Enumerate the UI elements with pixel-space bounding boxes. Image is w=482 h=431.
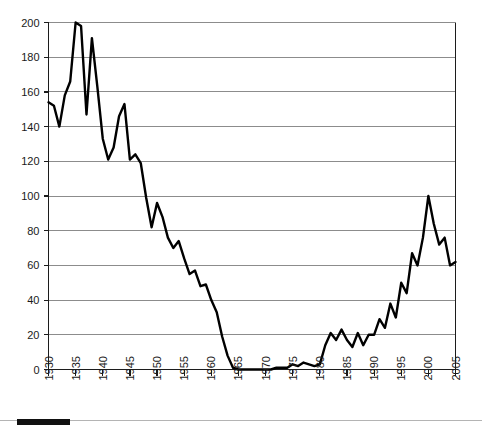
y-axis-tick-labels: 020406080100120140160180200 bbox=[21, 17, 39, 376]
x-tick-label: 1970 bbox=[260, 356, 272, 380]
chart-plot-svg: 020406080100120140160180200 193019351940… bbox=[0, 0, 482, 431]
x-tick-label: 1990 bbox=[368, 356, 380, 380]
line-chart-figure: 020406080100120140160180200 193019351940… bbox=[0, 0, 482, 431]
x-tick-label: 1995 bbox=[395, 356, 407, 380]
rule-track bbox=[0, 420, 482, 421]
y-tick-label: 80 bbox=[27, 225, 39, 237]
y-tick-label: 200 bbox=[21, 17, 39, 29]
y-tick-label: 100 bbox=[21, 190, 39, 202]
y-tick-label: 60 bbox=[27, 259, 39, 271]
footer-progress-rule[interactable] bbox=[0, 419, 482, 422]
x-tick-label: 1985 bbox=[341, 356, 353, 380]
x-tick-label: 1940 bbox=[97, 356, 109, 380]
gridlines bbox=[49, 23, 456, 335]
y-tick-label: 140 bbox=[21, 121, 39, 133]
y-tick-label: 40 bbox=[27, 294, 39, 306]
x-tick-label: 2000 bbox=[422, 356, 434, 380]
y-tick-label: 180 bbox=[21, 51, 39, 63]
x-tick-label: 1965 bbox=[232, 356, 244, 380]
x-tick-label: 1935 bbox=[70, 356, 82, 380]
y-tick-label: 0 bbox=[33, 364, 39, 376]
x-tick-label: 1955 bbox=[178, 356, 190, 380]
y-tick-label: 120 bbox=[21, 155, 39, 167]
x-tick-label: 1945 bbox=[124, 356, 136, 380]
x-tick-label: 1960 bbox=[205, 356, 217, 380]
x-tick-label: 1930 bbox=[43, 356, 55, 380]
rule-thumb[interactable] bbox=[17, 419, 70, 425]
y-tick-label: 20 bbox=[27, 329, 39, 341]
x-axis-tick-labels: 1930193519401945195019551960196519701975… bbox=[43, 356, 462, 380]
x-tick-label: 1950 bbox=[151, 356, 163, 380]
x-tick-label: 1975 bbox=[287, 356, 299, 380]
x-tick-label: 2005 bbox=[450, 356, 462, 380]
x-tick-label: 1980 bbox=[314, 356, 326, 380]
y-tick-label: 160 bbox=[21, 86, 39, 98]
